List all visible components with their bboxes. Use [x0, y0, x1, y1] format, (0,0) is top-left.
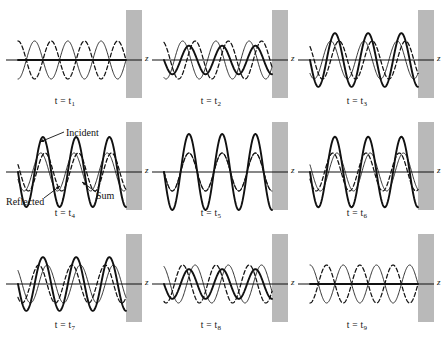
time-label-subscript: 7: [72, 324, 76, 332]
time-label-subscript: 5: [218, 212, 222, 220]
time-label-subscript: 8: [218, 324, 222, 332]
incident-annotation-label: Incident: [66, 127, 99, 138]
reflecting-barrier: [272, 234, 288, 322]
time-label-p8: t = t8: [138, 320, 284, 332]
time-label-subscript: 3: [364, 100, 368, 108]
z-axis-label: z: [291, 277, 295, 287]
time-label-p3: t = t3: [284, 96, 430, 108]
reflecting-barrier: [418, 234, 434, 322]
z-axis-label: z: [437, 165, 441, 175]
sum-annotation-label: Sum: [96, 190, 114, 201]
z-axis-label: z: [145, 277, 149, 287]
time-label-text: t = t: [55, 320, 72, 330]
wave-panel-p6: t = t6z: [296, 118, 442, 230]
time-label-p6: t = t6: [284, 208, 430, 220]
time-label-text: t = t: [347, 320, 364, 330]
time-label-text: t = t: [55, 208, 72, 218]
z-axis-label: z: [437, 277, 441, 287]
wave-panel-p9: t = t9z: [296, 230, 442, 342]
reflecting-barrier: [418, 10, 434, 98]
time-label-text: t = t: [55, 96, 72, 106]
time-label-subscript: 2: [218, 100, 222, 108]
time-label-p4: t = t4: [0, 208, 138, 220]
wave-panel-p1: t = t1z: [4, 6, 150, 118]
time-label-p1: t = t1: [0, 96, 138, 108]
time-label-subscript: 6: [364, 212, 368, 220]
time-label-p5: t = t5: [138, 208, 284, 220]
time-label-p2: t = t2: [138, 96, 284, 108]
time-label-subscript: 4: [72, 212, 76, 220]
reflected-annotation-label: Reflected: [6, 196, 44, 207]
time-label-subscript: 9: [364, 324, 368, 332]
z-axis-label: z: [145, 165, 149, 175]
time-label-text: t = t: [347, 208, 364, 218]
reflecting-barrier: [126, 234, 142, 322]
reflecting-barrier: [418, 122, 434, 210]
time-label-subscript: 1: [72, 100, 76, 108]
wave-panel-p2: t = t2z: [150, 6, 296, 118]
wave-panel-p3: t = t3z: [296, 6, 442, 118]
reflecting-barrier: [126, 122, 142, 210]
time-label-text: t = t: [201, 320, 218, 330]
time-label-p9: t = t9: [284, 320, 430, 332]
reflecting-barrier: [272, 122, 288, 210]
time-label-text: t = t: [201, 208, 218, 218]
wave-panel-p5: t = t5z: [150, 118, 296, 230]
z-axis-label: z: [437, 53, 441, 63]
z-axis-label: z: [291, 165, 295, 175]
wave-panel-p8: t = t8z: [150, 230, 296, 342]
time-label-p7: t = t7: [0, 320, 138, 332]
z-axis-label: z: [291, 53, 295, 63]
reflecting-barrier: [126, 10, 142, 98]
wave-panel-p7: t = t7z: [4, 230, 150, 342]
time-label-text: t = t: [201, 96, 218, 106]
time-label-text: t = t: [347, 96, 364, 106]
standing-wave-figure: t = t1zt = t2zt = t3zt = t4zt = t5zt = t…: [0, 0, 446, 344]
z-axis-label: z: [145, 53, 149, 63]
reflecting-barrier: [272, 10, 288, 98]
